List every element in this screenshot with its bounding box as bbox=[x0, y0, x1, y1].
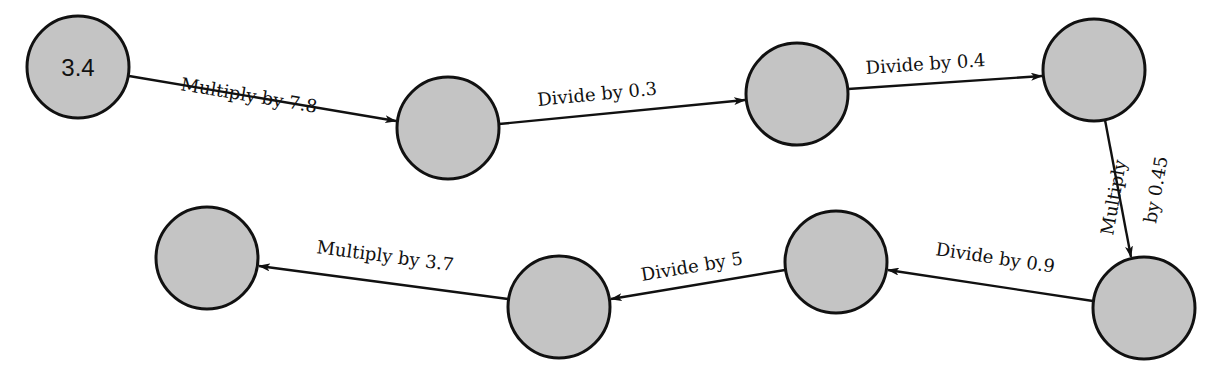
edge-label-divide-0-4: Divide by 0.4 bbox=[865, 49, 986, 78]
node-4 bbox=[1043, 19, 1145, 121]
node-3 bbox=[746, 43, 848, 145]
edge-n7-n8 bbox=[259, 266, 508, 299]
node-5 bbox=[1093, 257, 1195, 359]
flow-diagram: Multiply by 7.8 Divide by 0.3 Divide by … bbox=[0, 0, 1215, 382]
edge-label-divide-0-3: Divide by 0.3 bbox=[536, 78, 658, 110]
node-6 bbox=[785, 211, 887, 313]
edge-n5-n6 bbox=[888, 270, 1093, 301]
node-1-value: 3.4 bbox=[61, 54, 94, 81]
node-7 bbox=[508, 256, 610, 358]
edge-label-multiply-3-7: Multiply by 3.7 bbox=[315, 236, 455, 275]
node-8 bbox=[156, 207, 258, 309]
edge-n3-n4 bbox=[848, 76, 1042, 89]
edge-label-divide-0-9: Divide by 0.9 bbox=[934, 238, 1056, 277]
edge-n2-n3 bbox=[499, 100, 745, 124]
edge-label-multiply-0-45-line2: by 0.45 bbox=[1139, 155, 1171, 225]
node-1: 3.4 bbox=[27, 16, 129, 118]
node-2 bbox=[397, 77, 499, 179]
edge-label-multiply-7-8: Multiply by 7.8 bbox=[179, 73, 319, 116]
